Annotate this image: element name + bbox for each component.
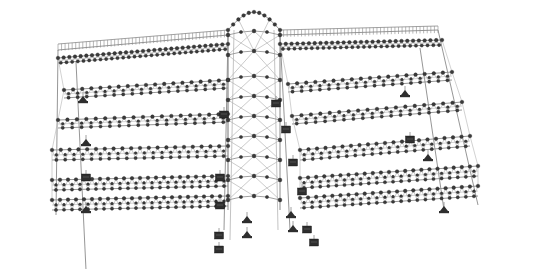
node <box>379 152 382 155</box>
node <box>305 121 308 124</box>
node <box>62 88 66 92</box>
node <box>343 203 346 206</box>
node <box>332 79 336 83</box>
node <box>336 41 340 45</box>
node <box>388 146 391 149</box>
node <box>333 115 336 118</box>
node <box>311 206 314 209</box>
node <box>354 149 357 152</box>
fixed-support-icon <box>406 132 415 143</box>
node <box>175 118 178 121</box>
node <box>102 187 105 190</box>
fixed-block <box>216 174 225 181</box>
node <box>121 147 125 151</box>
node <box>375 107 379 111</box>
node <box>424 173 427 176</box>
node <box>439 147 442 150</box>
node <box>159 201 162 204</box>
node <box>341 78 345 82</box>
node <box>409 81 412 84</box>
node <box>416 198 419 201</box>
node <box>154 176 158 180</box>
node <box>200 145 204 149</box>
node <box>99 153 102 156</box>
node <box>335 184 338 187</box>
node <box>252 174 256 178</box>
node <box>301 42 305 46</box>
node <box>143 152 146 155</box>
node <box>222 184 225 187</box>
node <box>213 87 216 90</box>
node <box>473 190 476 193</box>
node <box>400 39 404 43</box>
node <box>56 56 60 60</box>
node <box>422 148 425 151</box>
node <box>400 195 403 198</box>
node <box>278 138 282 142</box>
node <box>137 120 140 123</box>
node <box>309 89 312 92</box>
node <box>207 200 210 203</box>
node <box>265 155 268 158</box>
node <box>337 150 340 153</box>
node <box>359 77 363 81</box>
node <box>362 148 365 151</box>
node <box>395 170 399 174</box>
node <box>371 116 374 119</box>
node <box>103 182 106 185</box>
node <box>440 177 443 180</box>
support-base <box>286 216 296 218</box>
node <box>371 152 374 155</box>
node <box>108 85 112 89</box>
fixed-block <box>216 202 225 209</box>
node <box>99 121 102 124</box>
mid-chord <box>58 47 228 61</box>
node <box>472 175 475 178</box>
support-base <box>400 95 410 97</box>
node <box>86 188 89 191</box>
node <box>278 158 282 162</box>
node <box>307 41 311 45</box>
node <box>198 185 201 188</box>
support-base <box>288 230 298 232</box>
support-base <box>78 101 88 103</box>
node <box>194 195 198 199</box>
column <box>420 48 444 210</box>
node <box>165 119 168 122</box>
bracing <box>58 90 64 120</box>
node <box>355 192 359 196</box>
node <box>464 170 467 173</box>
node <box>103 147 107 151</box>
node <box>85 91 88 94</box>
node <box>391 200 394 203</box>
node <box>295 122 298 125</box>
node <box>75 118 79 122</box>
node <box>384 196 387 199</box>
node <box>382 80 385 83</box>
node <box>143 182 146 185</box>
node <box>156 146 160 150</box>
node <box>252 10 256 14</box>
node <box>252 29 256 33</box>
pin-support-icon <box>242 227 252 238</box>
node <box>314 175 318 179</box>
bracing <box>462 102 470 136</box>
node <box>68 148 72 152</box>
node <box>351 178 354 181</box>
pin-support-icon <box>423 150 433 161</box>
node <box>286 82 290 86</box>
node <box>298 196 302 200</box>
node <box>113 93 116 96</box>
node <box>213 83 216 86</box>
node <box>156 123 159 126</box>
node <box>318 84 321 87</box>
node <box>184 118 187 121</box>
node <box>174 186 177 189</box>
node <box>150 54 153 57</box>
node <box>375 196 378 199</box>
node <box>436 167 440 171</box>
node <box>371 148 374 151</box>
node <box>411 39 415 43</box>
node <box>239 155 242 158</box>
node <box>414 73 418 77</box>
